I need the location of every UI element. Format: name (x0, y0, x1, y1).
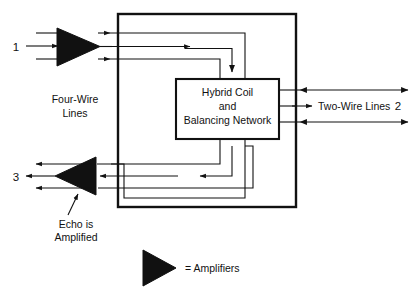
signal-path-top (110, 33, 245, 79)
four-wire-lines-label-line1: Four-Wire (52, 93, 99, 105)
legend-amplifier-icon (143, 250, 176, 286)
port-label-2: 2 (395, 100, 401, 112)
legend-label: = Amplifiers (185, 262, 240, 274)
port-label-3: 3 (13, 171, 19, 183)
echo-callout-line2: Amplified (54, 231, 97, 243)
two-wire-lines-label: Two-Wire Lines (318, 100, 390, 112)
echo-path-mid (200, 146, 232, 176)
four-wire-lines-label-line2: Lines (62, 107, 87, 119)
input-amplifier (57, 28, 100, 66)
echo-path-inner (111, 139, 220, 164)
hybrid-coil-label-line3: Balancing Network (184, 114, 272, 126)
diagram-canvas: Hybrid Coil and Balancing Network Two-Wi… (0, 0, 414, 300)
hybrid-coil-label-line1: Hybrid Coil (202, 86, 253, 98)
hybrid-coil-label-line2: and (219, 100, 237, 112)
port-label-1: 1 (13, 41, 19, 53)
signal-path-middle-drop (185, 49, 232, 73)
echo-path-lower (98, 146, 253, 188)
diagram-svg: Hybrid Coil and Balancing Network Two-Wi… (0, 0, 414, 300)
echo-callout-line1: Echo is (59, 218, 93, 230)
signal-path-bottom (110, 59, 220, 79)
output-amplifier (55, 157, 96, 195)
echo-callout-leader (68, 194, 78, 215)
